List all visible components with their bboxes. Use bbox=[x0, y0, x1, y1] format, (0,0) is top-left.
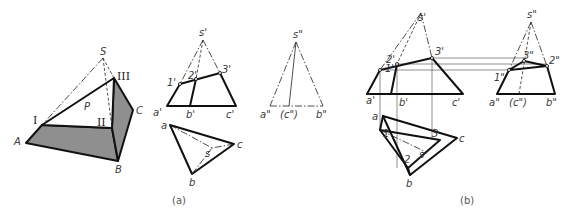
label-c-prime: c' bbox=[226, 109, 234, 120]
top-view-a: a c b s bbox=[161, 120, 243, 188]
label-b-prime-b: b' bbox=[399, 97, 408, 108]
label-a-dprime: a" bbox=[260, 109, 271, 120]
label-P: P bbox=[84, 101, 91, 112]
label-3-dprime-b: 3" bbox=[523, 50, 534, 61]
label-1-dprime-b: 1" bbox=[494, 72, 505, 83]
label-2-prime-b: 2' bbox=[386, 54, 395, 65]
front-view-b: s' 1' 2' 3' a' b' c' bbox=[366, 12, 463, 108]
label-II: II bbox=[97, 116, 106, 129]
label-a-b: a bbox=[372, 111, 378, 122]
label-b-dprime-b: b" bbox=[546, 97, 557, 108]
label-c-dprime: (c") bbox=[280, 109, 298, 120]
label-S: S bbox=[100, 46, 107, 57]
label-2-b: 2 bbox=[404, 154, 410, 165]
label-s: s bbox=[205, 148, 210, 159]
label-3-b: 3 bbox=[432, 128, 438, 139]
right-face-shaded bbox=[112, 78, 133, 161]
label-1-b: 1 bbox=[383, 128, 389, 139]
label-2-dprime-b: 2" bbox=[549, 55, 560, 66]
side-view-a: s" a" (c") b" bbox=[260, 29, 327, 120]
label-1-prime: 1' bbox=[167, 77, 176, 88]
pyramid-section-figure: S III C I II P A B s' 1' 2' 3' a' b' c' … bbox=[0, 0, 571, 218]
label-a-prime-b: a' bbox=[366, 95, 375, 106]
label-s-dprime-b: s" bbox=[527, 9, 537, 20]
label-3-prime-b: 3' bbox=[435, 46, 444, 57]
caption-b: (b) bbox=[460, 195, 474, 206]
caption-a: (a) bbox=[172, 195, 186, 206]
label-2-prime: 2' bbox=[188, 70, 197, 81]
label-a: a bbox=[161, 120, 167, 131]
label-s-prime: s' bbox=[199, 27, 207, 38]
label-A: A bbox=[13, 136, 21, 147]
label-I: I bbox=[33, 114, 37, 127]
label-b-prime: b' bbox=[186, 109, 195, 120]
label-c-dprime-b: (c") bbox=[509, 97, 527, 108]
label-III: III bbox=[117, 70, 130, 83]
label-C: C bbox=[136, 105, 143, 116]
label-b-dprime: b" bbox=[316, 109, 327, 120]
label-s-b: s bbox=[419, 149, 424, 160]
label-s-dprime: s" bbox=[293, 29, 303, 40]
label-3-prime: 3' bbox=[222, 64, 231, 75]
label-c-prime-b: c' bbox=[452, 97, 460, 108]
label-b: b bbox=[189, 177, 195, 188]
front-view-a: s' 1' 2' 3' a' b' c' bbox=[153, 27, 236, 120]
label-b-b: b bbox=[406, 178, 412, 189]
isometric-view: S III C I II P A B bbox=[13, 46, 143, 175]
label-s-prime-b: s' bbox=[418, 12, 426, 23]
top-view-b: a c b s 1 2 3 bbox=[372, 111, 465, 189]
side-view-b: s" 1" 3" 2" a" (c") b" bbox=[489, 9, 560, 108]
label-c: c bbox=[237, 139, 243, 150]
label-B: B bbox=[115, 164, 122, 175]
label-c-b: c bbox=[459, 133, 465, 144]
label-a-prime: a' bbox=[153, 107, 162, 118]
front-face-shaded bbox=[26, 125, 118, 161]
label-a-dprime-b: a" bbox=[489, 97, 500, 108]
projection-lines-b bbox=[380, 58, 547, 168]
